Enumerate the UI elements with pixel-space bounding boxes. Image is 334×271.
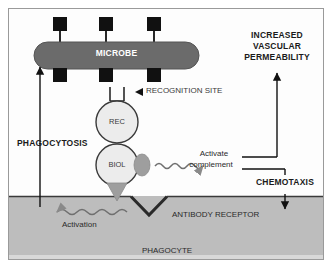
phagocyte-label: PHAGOCYTE xyxy=(117,247,217,256)
antigen-square-top-1 xyxy=(53,17,67,31)
diagram-frame: MICROBE RECOGNITION SITE REC BIOL PHAGOC… xyxy=(8,8,324,260)
biol-domain-label: BIOL xyxy=(97,161,137,169)
antigen-square-bottom-3 xyxy=(147,68,161,82)
activate-complement-label-line2: complement xyxy=(181,161,241,170)
antigen-square-top-2 xyxy=(99,17,113,31)
chemotaxis-label: CHEMOTAXIS xyxy=(241,178,324,188)
rec-domain-label: REC xyxy=(97,118,137,126)
antibody-receptor-label: ANTIBODY RECEPTOR xyxy=(172,211,259,220)
activation-label: Activation xyxy=(62,221,97,230)
antigen-square-bottom-1 xyxy=(53,68,67,82)
antigen-square-bottom-2 xyxy=(99,68,113,82)
recognition-site-prongs xyxy=(110,87,124,101)
increased-vascular-permeability-line3: PERMEABILITY xyxy=(233,53,321,63)
recognition-site-arrowhead xyxy=(135,88,143,96)
phagocytosis-label: PHAGOCYTOSIS xyxy=(17,139,88,149)
increased-vascular-permeability-line1: INCREASED xyxy=(235,31,319,41)
microbe-label: MICROBE xyxy=(34,49,199,59)
recognition-site-label: RECOGNITION SITE xyxy=(146,87,222,96)
activate-complement-label-line1: Activate xyxy=(187,150,241,159)
antigen-square-top-3 xyxy=(147,17,161,31)
diagram-canvas: MICROBE RECOGNITION SITE REC BIOL PHAGOC… xyxy=(0,0,334,271)
increased-vascular-permeability-line2: VASCULAR xyxy=(235,42,319,52)
